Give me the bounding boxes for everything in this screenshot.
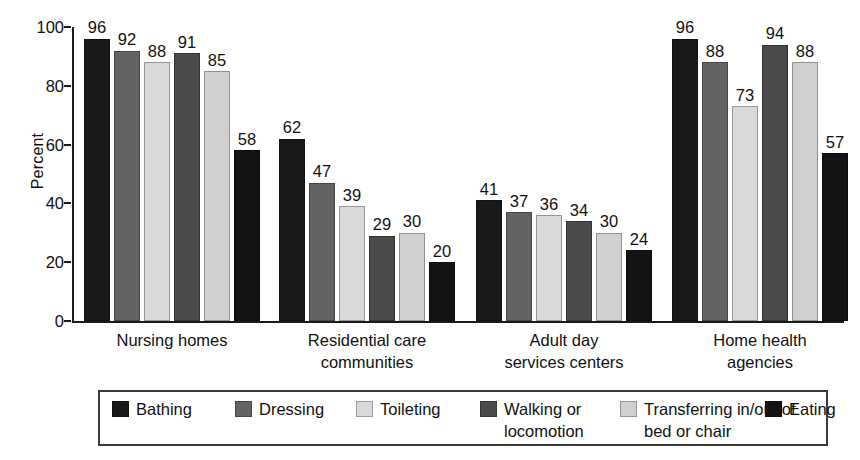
bar-rect[interactable] — [762, 45, 788, 321]
bar[interactable]: 47 — [309, 27, 335, 321]
bar[interactable]: 73 — [732, 27, 758, 321]
legend-swatch-icon — [765, 401, 782, 417]
bar[interactable]: 94 — [762, 27, 788, 321]
legend-item[interactable]: Toileting — [356, 399, 441, 421]
bar-value-label: 96 — [663, 19, 707, 36]
legend-swatch-icon — [620, 401, 637, 417]
y-axis-tick-mark — [64, 26, 71, 28]
bar-rect[interactable] — [506, 212, 532, 321]
bar-rect[interactable] — [204, 71, 230, 321]
bar-rect[interactable] — [672, 39, 698, 321]
bar-group: 969288918558 — [84, 27, 260, 321]
legend-item[interactable]: Bathing — [112, 399, 192, 421]
bar-rect[interactable] — [234, 150, 260, 321]
legend-swatch-icon — [356, 401, 373, 417]
bar-rect[interactable] — [626, 250, 652, 321]
bar-value-label: 85 — [195, 52, 239, 69]
y-axis-tick-label: 20 — [4, 254, 64, 271]
bar-group: 968873948857 — [672, 27, 848, 321]
bar[interactable]: 88 — [702, 27, 728, 321]
bar-value-label: 47 — [300, 163, 344, 180]
legend-swatch-icon — [480, 401, 497, 417]
bar-value-label: 39 — [330, 187, 374, 204]
legend-label: Toileting — [380, 399, 441, 421]
y-axis-tick-mark — [64, 85, 71, 87]
bar[interactable]: 30 — [399, 27, 425, 321]
bar-rect[interactable] — [369, 236, 395, 321]
bar[interactable]: 88 — [792, 27, 818, 321]
y-axis-tick-mark — [64, 320, 71, 322]
bar-value-label: 88 — [693, 43, 737, 60]
legend-label: Walking or locomotion — [504, 399, 584, 443]
bar-rect[interactable] — [174, 53, 200, 321]
legend-item[interactable]: Dressing — [235, 399, 324, 421]
bar[interactable]: 39 — [339, 27, 365, 321]
bar-value-label: 20 — [420, 243, 464, 260]
y-axis-tick-mark — [64, 261, 71, 263]
y-axis-ticks: 020406080100 — [0, 27, 64, 323]
bar-value-label: 57 — [813, 134, 857, 151]
y-axis-line — [72, 27, 74, 323]
bar-rect[interactable] — [84, 39, 110, 321]
bar[interactable]: 24 — [626, 27, 652, 321]
bar-value-label: 30 — [587, 213, 631, 230]
bar-value-label: 73 — [723, 87, 767, 104]
legend-item[interactable]: Walking or locomotion — [480, 399, 584, 443]
legend-label: Bathing — [136, 399, 192, 421]
bar[interactable]: 20 — [429, 27, 455, 321]
y-axis-tick-mark — [64, 144, 71, 146]
bar[interactable]: 57 — [822, 27, 848, 321]
bar-value-label: 62 — [270, 119, 314, 136]
y-axis-tick-label: 80 — [4, 78, 64, 95]
bar[interactable]: 92 — [114, 27, 140, 321]
bar[interactable]: 36 — [536, 27, 562, 321]
plot-area: 9692889185586247392930204137363430249688… — [72, 27, 844, 323]
bar[interactable]: 96 — [84, 27, 110, 321]
legend-label: Dressing — [259, 399, 324, 421]
bar[interactable]: 58 — [234, 27, 260, 321]
bar-rect[interactable] — [429, 262, 455, 321]
bar[interactable]: 37 — [506, 27, 532, 321]
bar-rect[interactable] — [114, 51, 140, 321]
y-axis-tick-label: 40 — [4, 195, 64, 212]
bar-value-label: 94 — [753, 25, 797, 42]
bar-value-label: 30 — [390, 213, 434, 230]
bar-chart-figure: Percent 020406080100 9692889185586247392… — [0, 0, 860, 460]
bar-rect[interactable] — [476, 200, 502, 321]
legend-swatch-icon — [112, 401, 129, 417]
legend-swatch-icon — [235, 401, 252, 417]
bar-rect[interactable] — [536, 215, 562, 321]
bar-value-label: 58 — [225, 131, 269, 148]
bar-rect[interactable] — [144, 62, 170, 321]
bar[interactable]: 30 — [596, 27, 622, 321]
y-axis-tick-label: 0 — [4, 313, 64, 330]
x-axis-category-label: Home health agencies — [642, 330, 860, 374]
bar-group: 413736343024 — [476, 27, 652, 321]
bar-value-label: 91 — [165, 34, 209, 51]
bar[interactable]: 91 — [174, 27, 200, 321]
legend-item[interactable]: Eating — [765, 399, 836, 421]
x-axis-line — [72, 321, 844, 323]
bar-group: 624739293020 — [279, 27, 455, 321]
y-axis-tick-label: 100 — [4, 19, 64, 36]
bar[interactable]: 34 — [566, 27, 592, 321]
chart-legend: BathingDressingToiletingWalking or locom… — [98, 390, 828, 446]
legend-label: Eating — [789, 399, 836, 421]
bar-rect[interactable] — [732, 106, 758, 321]
bar[interactable]: 41 — [476, 27, 502, 321]
bar[interactable]: 29 — [369, 27, 395, 321]
bar-rect[interactable] — [566, 221, 592, 321]
bar[interactable]: 96 — [672, 27, 698, 321]
bar-value-label: 88 — [783, 43, 827, 60]
bar-rect[interactable] — [309, 183, 335, 321]
bar[interactable]: 85 — [204, 27, 230, 321]
bar-rect[interactable] — [822, 153, 848, 321]
bar-rect[interactable] — [792, 62, 818, 321]
bar-value-label: 24 — [617, 231, 661, 248]
y-axis-tick-label: 60 — [4, 137, 64, 154]
y-axis-tick-mark — [64, 202, 71, 204]
bar[interactable]: 88 — [144, 27, 170, 321]
